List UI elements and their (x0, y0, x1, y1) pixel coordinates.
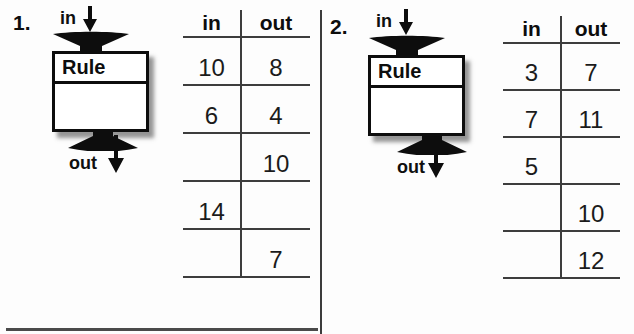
cell-out: 7 (562, 44, 620, 89)
rule-label: Rule (62, 56, 105, 79)
table-header-in: in (183, 10, 242, 36)
table-row: 7 (183, 230, 310, 278)
cell-out (562, 138, 620, 183)
cell-out: 4 (242, 86, 310, 132)
table-row: 3 7 (503, 44, 620, 91)
rule-label-cell: Rule (371, 58, 462, 88)
section-divider (320, 10, 322, 334)
table-row: 6 4 (183, 86, 310, 134)
machine-input-funnel (52, 31, 130, 52)
in-out-table: in out 3 7 7 11 5 10 12 (503, 16, 620, 279)
rule-label-cell: Rule (55, 54, 146, 84)
down-arrow-icon (399, 9, 413, 35)
cell-out: 11 (562, 91, 620, 136)
table-row: 10 (503, 185, 620, 232)
rule-box: Rule (368, 55, 465, 136)
out-label: out (69, 154, 97, 172)
in-label: in (60, 9, 76, 27)
cell-out: 7 (242, 230, 310, 276)
cell-in: 6 (183, 86, 242, 132)
cell-out: 10 (242, 134, 310, 180)
cell-in: 5 (503, 138, 562, 183)
cell-in: 7 (503, 91, 562, 136)
rule-label: Rule (378, 60, 421, 83)
table-row: 12 (503, 232, 620, 279)
cell-in: 10 (183, 38, 242, 84)
cell-out: 8 (242, 38, 310, 84)
cell-in (183, 230, 242, 276)
cell-out: 12 (562, 232, 620, 277)
table-row: 10 8 (183, 38, 310, 86)
machine-input-funnel (368, 35, 446, 56)
cell-in (503, 232, 562, 277)
table-header-out: out (562, 16, 620, 42)
in-out-table: in out 10 8 6 4 10 14 7 (183, 10, 310, 278)
problem-number: 2. (330, 15, 348, 39)
table-row: 7 11 (503, 91, 620, 138)
machine-output-funnel (67, 130, 139, 151)
down-arrow-icon (83, 6, 97, 32)
table-row: 5 (503, 138, 620, 185)
table-header-row: in out (503, 16, 620, 44)
down-arrow-icon (108, 135, 124, 173)
cell-out (242, 182, 310, 228)
problem-number: 1. (13, 11, 31, 35)
out-label: out (397, 158, 425, 176)
table-header-row: in out (183, 10, 310, 38)
cell-in (503, 185, 562, 230)
table-row: 14 (183, 182, 310, 230)
table-row: 10 (183, 134, 310, 182)
table-header-out: out (242, 10, 310, 36)
worksheet-page: 1. in Rule out (0, 0, 634, 334)
cell-in: 3 (503, 44, 562, 89)
bottom-rule (6, 328, 318, 331)
table-header-in: in (503, 16, 562, 42)
in-label: in (376, 12, 392, 30)
cell-in: 14 (183, 182, 242, 228)
cell-out: 10 (562, 185, 620, 230)
down-arrow-icon (428, 140, 444, 178)
rule-box: Rule (52, 51, 149, 132)
cell-in (183, 134, 242, 180)
